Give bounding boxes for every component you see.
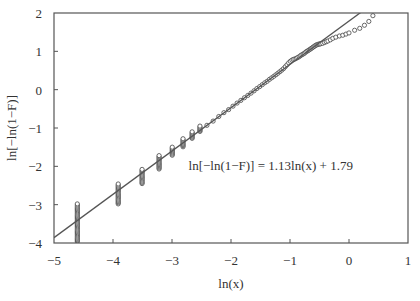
y-tick-label: −1 (28, 121, 42, 136)
x-tick-label: −1 (283, 253, 297, 268)
data-point (358, 26, 362, 30)
x-tick-label: −3 (165, 253, 179, 268)
y-tick-label: −3 (28, 198, 42, 213)
data-point (371, 14, 375, 18)
data-points (75, 14, 375, 244)
x-tick-label: −5 (47, 253, 61, 268)
fit-line (54, 0, 408, 238)
y-tick-label: −2 (28, 159, 42, 174)
x-axis-label: ln(x) (218, 276, 243, 291)
y-tick-label: −4 (28, 236, 42, 251)
y-tick-label: 0 (36, 83, 43, 98)
data-point (198, 124, 202, 128)
x-tick-label: −4 (106, 253, 120, 268)
plot-frame (54, 13, 408, 243)
data-point (347, 31, 351, 35)
data-point (190, 130, 194, 134)
x-tick-label: −2 (224, 253, 238, 268)
x-tick-label: 0 (346, 253, 353, 268)
weibull-probability-plot: −5−4−3−2−101 −4−3−2−1012 ln(x) ln[−ln(1−… (0, 0, 420, 301)
y-axis-label: ln[−ln(1−F)] (4, 95, 19, 161)
data-point (362, 23, 366, 27)
y-tick-label: 2 (36, 6, 43, 21)
x-tick-label: 1 (405, 253, 412, 268)
data-point (140, 167, 144, 171)
data-point (181, 137, 185, 141)
data-point (353, 28, 357, 32)
data-point (116, 182, 120, 186)
data-point (367, 19, 371, 23)
fit-equation-annotation: ln[−ln(1−F)] = 1.13ln(x) + 1.79 (189, 158, 353, 173)
data-point (170, 145, 174, 149)
data-point (75, 202, 79, 206)
data-point (157, 154, 161, 158)
y-tick-label: 1 (36, 44, 43, 59)
